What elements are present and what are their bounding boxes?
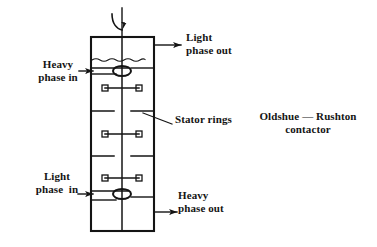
label-light-phase-out: Light phase out xyxy=(186,31,232,57)
figure-title-line1: Oldshue — Rushton xyxy=(259,110,356,122)
label-heavy-phase-out: Heavy phase out xyxy=(178,189,224,215)
interface-wavy-line xyxy=(92,59,145,62)
drive-shaft-inlet xyxy=(112,8,122,37)
label-light-phase-in: Light phase in xyxy=(20,170,94,196)
label-stator-rings: Stator rings xyxy=(175,113,232,126)
stator-rings-leader-line xyxy=(143,113,172,124)
figure-title: Oldshue — Rushtoncontactor xyxy=(244,110,372,135)
oldshue-rushton-contactor-figure: Light phase out Heavy phase in Stator ri… xyxy=(0,0,377,247)
figure-title-line2: contactor xyxy=(285,123,331,135)
label-heavy-phase-in: Heavy phase in xyxy=(24,58,92,84)
